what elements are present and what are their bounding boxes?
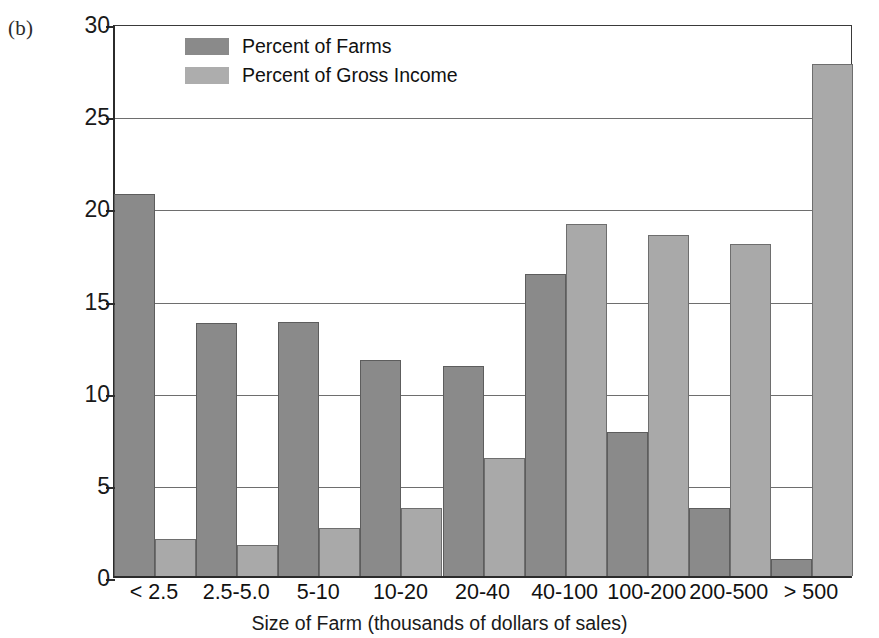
x-axis-label-1: 2.5-5.0 (195, 580, 277, 605)
y-tick-label-10: 10 (84, 381, 110, 408)
bar-farms-7 (689, 508, 730, 576)
bar-income-5 (566, 224, 607, 576)
bar-farms-8 (771, 559, 812, 576)
y-tick-label-15: 15 (84, 288, 110, 315)
y-tick-label-5: 5 (97, 473, 110, 500)
x-axis-label-5: 40-100 (524, 580, 606, 605)
bar-income-8 (812, 64, 853, 576)
legend-label-1: Percent of Gross Income (242, 64, 458, 87)
x-axis-label-4: 20-40 (441, 580, 523, 605)
x-axis-title: Size of Farm (thousands of dollars of sa… (0, 612, 879, 635)
legend-item-1: Percent of Gross Income (185, 62, 458, 89)
panel-label: (b) (8, 16, 33, 41)
gridline-25 (115, 118, 851, 119)
x-axis-label-7: 200-500 (688, 580, 770, 605)
bar-farms-1 (196, 323, 237, 576)
legend-item-0: Percent of Farms (185, 33, 458, 60)
y-tick-label-0: 0 (97, 565, 110, 592)
bar-income-4 (484, 458, 525, 576)
x-axis-label-2: 5-10 (277, 580, 359, 605)
plot-area: 051015202530 (113, 25, 852, 578)
y-tick-label-30: 30 (84, 12, 110, 39)
bar-farms-4 (443, 366, 484, 576)
figure: (b) 051015202530 Percent Distributions <… (0, 0, 879, 638)
x-axis-category-labels: < 2.52.5-5.05-1010-2020-4040-100100-2002… (113, 580, 852, 610)
x-axis-label-0: < 2.5 (113, 580, 195, 605)
legend-swatch-icon-1 (185, 67, 229, 84)
bar-farms-6 (607, 432, 648, 576)
bar-farms-5 (525, 274, 566, 576)
y-tick-label-25: 25 (84, 104, 110, 131)
bar-farms-0 (114, 194, 155, 576)
bar-income-0 (155, 539, 196, 576)
bar-farms-3 (360, 360, 401, 576)
legend: Percent of FarmsPercent of Gross Income (185, 33, 458, 91)
bar-income-3 (401, 508, 442, 576)
x-axis-label-3: 10-20 (359, 580, 441, 605)
bar-income-1 (237, 545, 278, 576)
legend-swatch-icon-0 (185, 38, 229, 55)
bar-income-7 (730, 244, 771, 576)
bar-income-2 (319, 528, 360, 576)
gridline-20 (115, 210, 851, 211)
bar-farms-2 (278, 322, 319, 576)
legend-label-0: Percent of Farms (242, 35, 392, 58)
x-axis-label-8: > 500 (770, 580, 852, 605)
y-tick-label-20: 20 (84, 196, 110, 223)
bar-income-6 (648, 235, 689, 576)
x-axis-label-6: 100-200 (606, 580, 688, 605)
